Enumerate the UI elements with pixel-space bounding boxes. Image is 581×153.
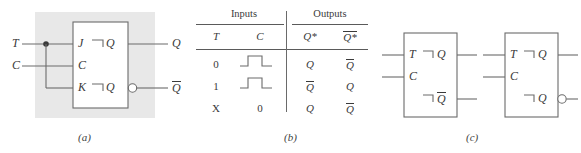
panel-caption-c: (c) bbox=[466, 131, 478, 143]
cell-qnext-bar-row3: Q bbox=[332, 102, 368, 115]
truth-table: Inputs Outputs T C Q* Q* 0 Q Q 1 Q Q X 0… bbox=[196, 8, 368, 120]
pin-label-qbar-left: Q bbox=[437, 91, 446, 107]
rule-top-outputs bbox=[292, 24, 368, 25]
pin-label-j: J bbox=[78, 36, 83, 51]
overbar-text: Q bbox=[306, 80, 314, 93]
cell-qnext-bar-row2: Q bbox=[332, 80, 368, 92]
column-header-qnext: Q* bbox=[292, 30, 328, 42]
overbar-text: Q bbox=[346, 102, 354, 115]
group-header-outputs: Outputs bbox=[292, 8, 368, 19]
panel-a-input-label-t: T bbox=[12, 36, 19, 51]
overbar-text: Q bbox=[346, 58, 354, 71]
column-header-c: C bbox=[240, 30, 280, 42]
cell-t-row2: 1 bbox=[198, 80, 234, 92]
pin-label-q: Q bbox=[106, 36, 115, 51]
overbar-text: Q bbox=[172, 80, 181, 96]
rule-under-columns bbox=[196, 49, 368, 50]
overbar-text: Q* bbox=[343, 30, 356, 43]
panel-a-input-label-c: C bbox=[12, 58, 20, 73]
inverting-bubble bbox=[128, 84, 136, 92]
cell-qnext-row1: Q bbox=[292, 58, 328, 70]
pin-label-q-left: Q bbox=[437, 47, 446, 62]
rule-top-inputs bbox=[196, 24, 284, 25]
column-header-qnext-bar: Q* bbox=[332, 30, 368, 43]
cell-qnext-bar-row1: Q bbox=[332, 58, 368, 71]
panel-caption-a: (a) bbox=[78, 131, 91, 143]
group-header-inputs: Inputs bbox=[200, 8, 288, 19]
pin-label-c-left: C bbox=[409, 69, 417, 84]
cell-qnext-row2: Q bbox=[292, 80, 328, 93]
cell-qnext-row3: Q bbox=[292, 102, 328, 114]
pin-label-t-right: T bbox=[510, 47, 517, 62]
panel-a-output-label-qbar: Q bbox=[172, 80, 181, 96]
inverting-bubble bbox=[558, 95, 566, 103]
figure-t-flip-flop: T C J C K Q Q Q Q T C Q Q T C Q Q Inputs… bbox=[0, 0, 581, 153]
pin-label-q-right: Q bbox=[538, 47, 547, 62]
rule-vertical-divider bbox=[286, 11, 287, 112]
overbar-text: Q bbox=[437, 91, 446, 107]
cell-t-row3: X bbox=[198, 102, 234, 114]
column-header-t: T bbox=[198, 30, 234, 42]
pin-label-t-left: T bbox=[409, 47, 416, 62]
pin-label-q-lower: Q bbox=[106, 80, 115, 95]
pin-label-q-lower-right: Q bbox=[538, 91, 547, 106]
cell-t-row1: 0 bbox=[198, 58, 234, 70]
panel-a-output-label-q: Q bbox=[172, 36, 181, 51]
pin-label-c: C bbox=[78, 58, 86, 73]
cell-c-row3: 0 bbox=[240, 102, 280, 114]
pin-label-c-right: C bbox=[510, 69, 518, 84]
panel-caption-b: (b) bbox=[284, 131, 297, 143]
pin-label-k: K bbox=[78, 80, 86, 95]
